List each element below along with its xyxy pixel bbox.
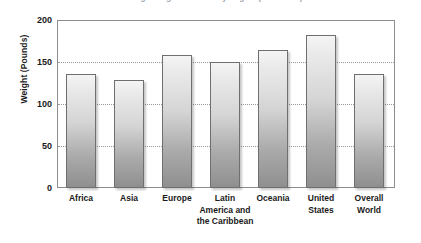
x-axis-labels: Africa Asia Europe LatinAmerica andthe C… — [57, 193, 395, 241]
x-label-overall-world: OverallWorld — [337, 193, 401, 216]
bar-series — [57, 20, 395, 188]
bar-africa — [66, 74, 96, 188]
bar-europe — [162, 55, 192, 188]
y-tick-label-0: 0 — [14, 184, 52, 193]
bar-oceania — [258, 50, 288, 188]
bar-overall-world — [354, 74, 384, 188]
bar-asia — [114, 80, 144, 188]
bar-chart: Average Weight of Adults by Region (in P… — [0, 0, 421, 243]
y-tick-label-50: 50 — [14, 142, 52, 151]
chart-title-cropped: Average Weight of Adults by Region (in P… — [0, 0, 421, 9]
bar-latin-america — [210, 62, 240, 188]
y-axis-title: Weight (Pounds) — [19, 9, 29, 129]
bar-united-states — [306, 35, 336, 188]
chart-title-text: Average Weight of Adults by Region (in P… — [0, 0, 421, 2]
